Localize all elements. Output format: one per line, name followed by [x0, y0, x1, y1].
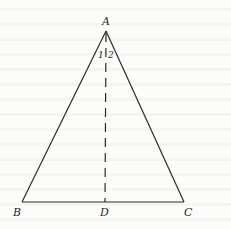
bisector-ad [105, 33, 106, 202]
vertex-label-a: A [101, 15, 110, 28]
angle-label-2: 2 [107, 50, 114, 60]
angle-label-1: 1 [98, 50, 104, 60]
triangle-diagram: A B C D 1 2 [0, 0, 231, 229]
vertex-label-d: D [99, 206, 109, 219]
vertex-label-c: C [184, 206, 193, 219]
page-background: A B C D 1 2 [0, 0, 231, 229]
side-ac [106, 31, 184, 202]
vertex-label-b: B [12, 206, 21, 219]
side-ab [22, 31, 106, 202]
